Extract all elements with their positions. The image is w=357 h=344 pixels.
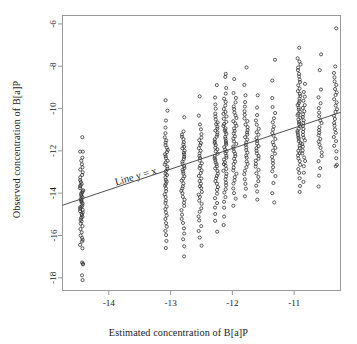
- data-point: [255, 184, 258, 187]
- data-point: [319, 102, 322, 105]
- data-point: [298, 171, 301, 174]
- data-point: [213, 197, 216, 200]
- data-point: [303, 110, 306, 113]
- x-tick-label: -14: [103, 298, 116, 308]
- data-point: [274, 146, 277, 149]
- data-point: [243, 169, 246, 172]
- data-point: [199, 142, 202, 145]
- data-point: [333, 128, 336, 131]
- data-point: [296, 57, 299, 60]
- data-point: [257, 175, 260, 178]
- data-point: [198, 95, 201, 98]
- data-point: [216, 230, 219, 233]
- data-point: [271, 170, 274, 173]
- data-point: [232, 187, 235, 190]
- data-point: [244, 182, 247, 185]
- data-point: [223, 215, 226, 218]
- data-point: [255, 113, 258, 116]
- y-tick-label: -12: [49, 144, 59, 157]
- data-point: [297, 84, 300, 87]
- data-point: [233, 179, 236, 182]
- data-point: [214, 212, 217, 215]
- data-point: [215, 188, 218, 191]
- data-point: [274, 111, 277, 114]
- data-point: [81, 156, 84, 159]
- data-point: [166, 109, 169, 112]
- data-point: [225, 115, 228, 118]
- data-point: [215, 84, 218, 87]
- data-point: [222, 112, 225, 115]
- data-point: [271, 105, 274, 108]
- data-point: [271, 166, 274, 169]
- data-point: [164, 246, 167, 249]
- data-point: [243, 105, 246, 108]
- x-tick-label: -13: [164, 298, 177, 308]
- data-point: [319, 167, 322, 170]
- data-point: [214, 103, 217, 106]
- data-point: [165, 214, 168, 217]
- data-point: [254, 159, 257, 162]
- data-point: [271, 162, 274, 165]
- data-point: [243, 113, 246, 116]
- data-point: [304, 159, 307, 162]
- data-point: [256, 94, 259, 97]
- data-point: [302, 165, 305, 168]
- data-point: [243, 173, 246, 176]
- tick-marks: [58, 24, 294, 295]
- data-point: [164, 119, 167, 122]
- data-point: [318, 69, 321, 72]
- data-point: [303, 82, 306, 85]
- data-point: [182, 138, 185, 141]
- data-point: [225, 86, 228, 89]
- data-point: [164, 208, 167, 211]
- data-point: [234, 96, 237, 99]
- data-point: [81, 247, 84, 250]
- data-point: [320, 155, 323, 158]
- data-point: [232, 91, 235, 94]
- data-point: [298, 160, 301, 163]
- data-point: [224, 104, 227, 107]
- data-point: [320, 53, 323, 56]
- data-point: [232, 192, 235, 195]
- data-point: [224, 196, 227, 199]
- data-point: [318, 111, 321, 114]
- data-point: [164, 126, 167, 129]
- data-point: [255, 172, 258, 175]
- data-point: [243, 195, 246, 198]
- data-point: [198, 236, 201, 239]
- plot-canvas: -14-13-12-11 -6-8-10-12-14-16-18 Line y …: [0, 0, 357, 344]
- data-point: [333, 98, 336, 101]
- data-point: [233, 176, 236, 179]
- data-point: [164, 99, 167, 102]
- data-point: [319, 88, 322, 91]
- data-point: [254, 119, 257, 122]
- identity-line: [63, 112, 341, 205]
- data-point: [271, 155, 274, 158]
- x-axis-title: Estimated concentration of B[a]P: [0, 327, 357, 338]
- data-point: [164, 217, 167, 220]
- data-point: [317, 96, 320, 99]
- data-point: [245, 66, 248, 69]
- data-point: [197, 174, 200, 177]
- data-point: [244, 94, 247, 97]
- data-point: [333, 76, 336, 79]
- data-point: [333, 80, 336, 83]
- data-point: [200, 244, 203, 247]
- data-point: [298, 177, 301, 180]
- data-point: [222, 117, 225, 120]
- reference-line: [63, 112, 341, 205]
- data-point: [334, 104, 337, 107]
- scatter-plot-figure: -14-13-12-11 -6-8-10-12-14-16-18 Line y …: [0, 0, 357, 344]
- data-point: [214, 129, 217, 132]
- data-point: [271, 121, 274, 124]
- data-point: [318, 143, 321, 146]
- data-point: [320, 151, 323, 154]
- data-point: [198, 123, 201, 126]
- data-point: [81, 279, 84, 282]
- data-point: [332, 135, 335, 138]
- data-point: [243, 178, 246, 181]
- data-point: [200, 133, 203, 136]
- y-tick-label: -18: [49, 271, 59, 284]
- data-point: [257, 127, 260, 130]
- data-point: [164, 229, 167, 232]
